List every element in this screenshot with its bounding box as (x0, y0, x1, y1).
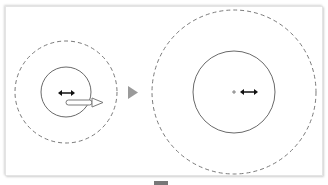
before-inner-circle (41, 67, 91, 117)
before-resize-cursor-icon (58, 90, 75, 96)
before-outer-dashed-ring (15, 41, 117, 143)
after-resize-cursor-icon (240, 89, 258, 95)
caption-cutoff (154, 181, 168, 185)
center-crosshair-icon (232, 90, 236, 94)
before-state (15, 41, 117, 143)
after-state (152, 10, 316, 174)
brush-resize-diagram (0, 0, 328, 185)
transition-arrow-icon (128, 86, 138, 99)
drag-right-arrow-icon (66, 98, 103, 107)
